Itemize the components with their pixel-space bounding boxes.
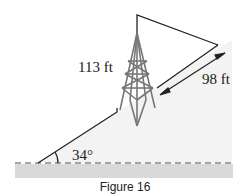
angle-label: 34°: [72, 147, 93, 163]
guy-wire: [137, 15, 218, 45]
figure-caption: Figure 16: [100, 180, 151, 194]
tower-height-label: 113 ft: [78, 59, 114, 75]
ground-band: [15, 164, 233, 178]
diagram-figure: 113 ft 98 ft 34° Figure 16: [0, 0, 249, 195]
slope-distance-label: 98 ft: [202, 71, 231, 87]
